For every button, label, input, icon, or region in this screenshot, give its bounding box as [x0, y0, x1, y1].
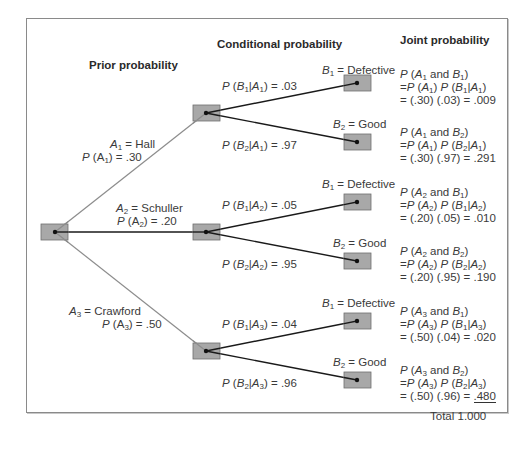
outcome-b1-a1: B1 = Defective	[322, 64, 395, 77]
prior-a3: P (A3) = .50	[102, 318, 162, 331]
cond-b2-a2: P (B2|A2) = .95	[222, 258, 297, 271]
total-label: Total 1.000	[430, 410, 486, 423]
cond-b2-a1: P (B2|A1) = .97	[222, 139, 297, 152]
label-a3: A3 = Crawford	[69, 305, 141, 318]
outcome-b2-a3: B2 = Good	[333, 356, 386, 369]
joint-a3-b2: P (A3 and B2) =P (A3) P (B2|A3) = (.50) …	[400, 364, 496, 403]
prior-a2: P (A2) = .20	[117, 215, 177, 228]
joint-a3-b2-value: .480	[474, 390, 496, 403]
joint-a2-b2: P (A2 and B2) =P (A2) P (B2|A2) = (.20) …	[400, 245, 496, 284]
cond-b2-a3: P (B2|A3) = .96	[222, 377, 297, 390]
outcome-b1-a2: B1 = Defective	[322, 178, 395, 191]
joint-a2-b1: P (A2 and B1) =P (A2) P (B1|A2) = (.20) …	[400, 186, 496, 225]
cond-b1-a3: P (B1|A3) = .04	[222, 318, 297, 331]
joint-probability-header: Joint probability	[400, 34, 489, 46]
label-a2: A2 = Schuller	[116, 202, 183, 215]
cond-b1-a2: P (B1|A2) = .05	[222, 199, 297, 212]
branch-a3	[55, 232, 206, 351]
prior-a1: P (A1) = .30	[82, 151, 142, 164]
joint-a1-b2: P (A1 and B2) =P (A1) P (B2|A1) = (.30) …	[400, 126, 496, 165]
label-a1: A1 = Hall	[110, 138, 155, 151]
conditional-probability-header: Conditional probability	[217, 38, 342, 50]
outcome-b2-a2: B2 = Good	[333, 237, 386, 250]
cond-b1-a1: P (B1|A1) = .03	[222, 80, 297, 93]
joint-a3-b1: P (A3 and B1) =P (A3) P (B1|A3) = (.50) …	[400, 305, 496, 344]
joint-a1-b1: P (A1 and B1) =P (A1) P (B1|A1) = (.30) …	[400, 68, 496, 107]
outcome-b1-a3: B1 = Defective	[322, 297, 395, 310]
prior-probability-header: Prior probability	[89, 59, 178, 71]
outcome-b2-a1: B2 = Good	[333, 118, 386, 131]
